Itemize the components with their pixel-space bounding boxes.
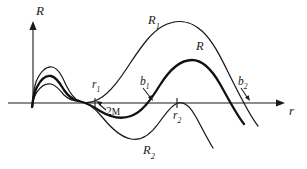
curve-R bbox=[32, 60, 244, 124]
curve-label-R2: R2 bbox=[143, 144, 155, 160]
r-axis-label: r bbox=[289, 104, 294, 117]
figure-container: R r R1 R R2 r1 r2 b1 b2 2M bbox=[0, 0, 307, 169]
curve-R2 bbox=[32, 84, 213, 148]
annotation-label-2M: 2M bbox=[106, 106, 120, 118]
curve-R1 bbox=[32, 22, 258, 126]
tick-label-r1: r1 bbox=[92, 79, 100, 93]
curve-label-R: R bbox=[196, 40, 204, 53]
annotation-label-b1: b1 bbox=[140, 76, 150, 90]
r-axis-arrowhead bbox=[276, 99, 285, 106]
R-axis-label: R bbox=[36, 4, 44, 17]
axes-group bbox=[8, 21, 285, 107]
annotation-label-b2: b2 bbox=[238, 76, 248, 90]
curve-label-R1: R1 bbox=[148, 14, 160, 30]
tick-label-r2: r2 bbox=[173, 110, 181, 124]
R-axis-arrowhead bbox=[29, 21, 36, 30]
